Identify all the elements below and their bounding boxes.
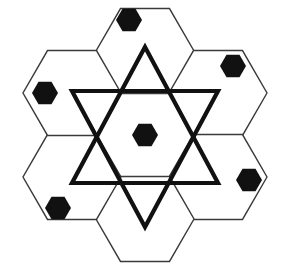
figure-canvas [0,0,284,273]
hex-star-diagram [0,0,284,273]
